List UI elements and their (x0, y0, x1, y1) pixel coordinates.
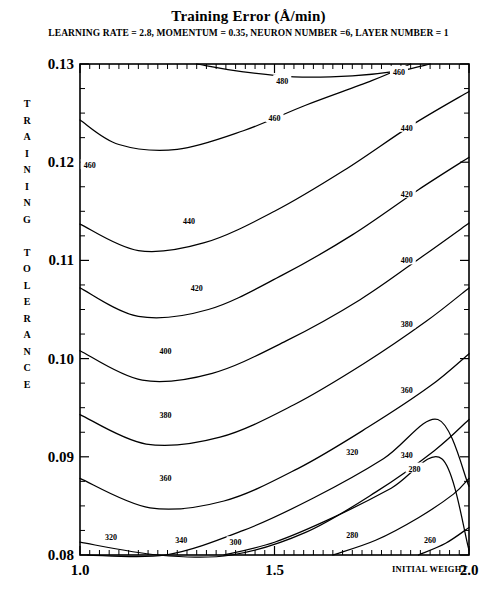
axis-tick-labels: 1.01.52.00.080.090.100.110.120.13 (48, 56, 479, 578)
contour-line-340 (80, 419, 469, 557)
contour-label-380: 380 (401, 320, 413, 329)
axis-ticks (80, 64, 469, 555)
contour-label-420: 420 (191, 284, 203, 293)
x-tick-label: 1.0 (71, 562, 90, 578)
axes-frame (80, 64, 469, 555)
contour-label-280: 280 (346, 531, 358, 540)
contour-line-400 (80, 223, 469, 382)
contour-plot-figure: Training Error (Å/min) LEARNING RATE = 2… (0, 0, 497, 609)
contour-label-440: 440 (183, 217, 195, 226)
contour-label-400: 400 (160, 347, 172, 356)
contour-label-460: 460 (84, 161, 96, 170)
contour-label-340: 340 (175, 536, 187, 545)
y-tick-label: 0.12 (48, 154, 74, 170)
plot-area: 4804604604604404404204204004003803803603… (0, 0, 497, 609)
contour-label-360: 360 (401, 386, 413, 395)
contour-line-460 (80, 64, 411, 150)
contour-label-260: 260 (424, 536, 436, 545)
contour-label-460: 460 (393, 68, 405, 77)
contour-line-280 (333, 478, 469, 555)
contour-label-420: 420 (401, 190, 413, 199)
y-tick-label: 0.13 (48, 56, 74, 72)
x-axis-title: INITIAL WEIGHT (392, 564, 468, 574)
x-tick-label: 1.5 (265, 562, 284, 578)
contour-label-440: 440 (401, 124, 413, 133)
contour-label-300: 300 (230, 538, 242, 547)
contour-line-420 (80, 157, 469, 317)
contour-label-320: 320 (105, 533, 117, 542)
contour-label-340: 340 (401, 451, 413, 460)
contour-lines (80, 64, 469, 557)
y-tick-label: 0.08 (48, 547, 74, 563)
contour-label-360: 360 (160, 474, 172, 483)
contour-labels: 4804604604604404404204204004003803803603… (81, 66, 439, 547)
y-tick-label: 0.10 (48, 351, 74, 367)
contour-label-280: 280 (409, 465, 421, 474)
contour-label-380: 380 (160, 411, 172, 420)
y-tick-label: 0.11 (49, 252, 74, 268)
contour-label-460: 460 (269, 114, 281, 123)
contour-line-320 (88, 419, 469, 557)
contour-label-400: 400 (401, 256, 413, 265)
contour-label-320: 320 (346, 448, 358, 457)
y-tick-label: 0.09 (48, 449, 74, 465)
contour-line-360 (80, 354, 469, 510)
contour-label-480: 480 (276, 77, 288, 86)
contour-line-380 (80, 288, 469, 446)
